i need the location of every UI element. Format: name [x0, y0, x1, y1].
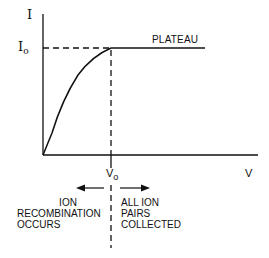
left-region-text: ION RECOMBINATION OCCURS	[17, 197, 103, 230]
right-region-text: ALL ION PAIRS COLLECTED	[121, 197, 181, 230]
current-voltage-curve	[43, 48, 111, 155]
right-region-line-3: COLLECTED	[121, 219, 181, 230]
y-axis-label: I	[27, 8, 32, 21]
left-region-line-1: ION	[17, 197, 103, 208]
i0-label: Io	[18, 40, 29, 53]
right-region-line-1: ALL ION	[121, 197, 181, 208]
i0-label-subscript: o	[23, 46, 28, 56]
right-region-line-2: PAIRS	[121, 208, 181, 219]
v0-label-subscript: o	[113, 172, 118, 182]
left-region-line-3: OCCURS	[17, 219, 103, 230]
left-region-line-2: RECOMBINATION	[17, 208, 103, 219]
plateau-label: PLATEAU	[152, 35, 198, 45]
left-arrow-icon	[76, 185, 85, 192]
x-axis-label: V	[245, 168, 252, 179]
right-arrow-icon	[141, 185, 150, 192]
v0-label: Vo	[106, 168, 118, 179]
